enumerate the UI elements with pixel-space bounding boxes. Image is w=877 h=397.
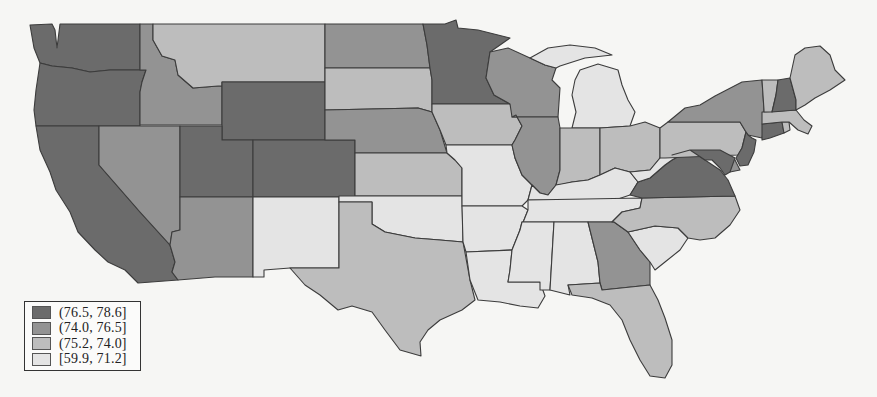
state-me [790,46,845,110]
states-layer [30,20,845,378]
state-nd [325,24,430,68]
legend-label: (75.2, 74.0] [59,336,127,352]
legend-item-bin-3: (74.0, 76.5] [32,321,140,337]
legend-item-bin-1: [59.9, 71.2] [32,352,140,368]
state-nm [253,197,339,277]
legend-label: (76.5, 78.6] [59,305,127,321]
map-legend: (76.5, 78.6] (74.0, 76.5] (75.2, 74.0] [… [24,301,141,371]
state-ct [762,122,784,140]
state-az [170,197,253,280]
state-or [34,63,146,126]
legend-swatch-icon [32,322,51,335]
state-in [556,128,600,185]
legend-item-bin-4: (76.5, 78.6] [32,305,140,321]
legend-swatch-icon [32,353,51,366]
state-ri [782,122,790,133]
legend-swatch-icon [32,306,51,319]
state-ia [432,104,522,145]
legend-swatch-icon [32,337,51,350]
state-wy [222,82,325,140]
state-oh [600,122,660,175]
state-sd [325,68,432,112]
legend-label: [59.9, 71.2] [59,351,127,367]
legend-item-bin-2: (75.2, 74.0] [32,336,140,352]
state-fl [568,283,672,378]
legend-label: (74.0, 76.5] [59,320,127,336]
state-co [253,140,355,197]
state-ks [355,153,462,196]
